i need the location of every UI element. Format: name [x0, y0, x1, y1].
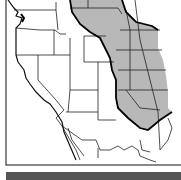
legend-strip: [6, 172, 181, 180]
map-canvas: [0, 0, 181, 180]
